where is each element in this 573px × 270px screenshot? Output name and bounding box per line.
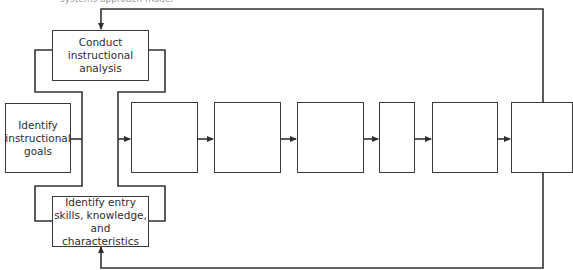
feedback-line-bottom <box>101 172 543 268</box>
box-identify-entry-skills: Identify entry skills, knowledge, and ch… <box>52 196 149 247</box>
box-conduct-instructional-analysis: Conduct instructional analysis <box>52 30 149 81</box>
feedback-line-top <box>101 9 543 102</box>
box-step-4 <box>379 102 415 173</box>
box-step-2 <box>214 102 281 173</box>
box-step-3 <box>297 102 364 173</box>
box-step-6 <box>511 102 573 173</box>
box-step-5 <box>432 102 498 173</box>
box-step-1 <box>131 102 198 173</box>
box-identify-instructional-goals: Identify instructional goals <box>5 103 71 173</box>
